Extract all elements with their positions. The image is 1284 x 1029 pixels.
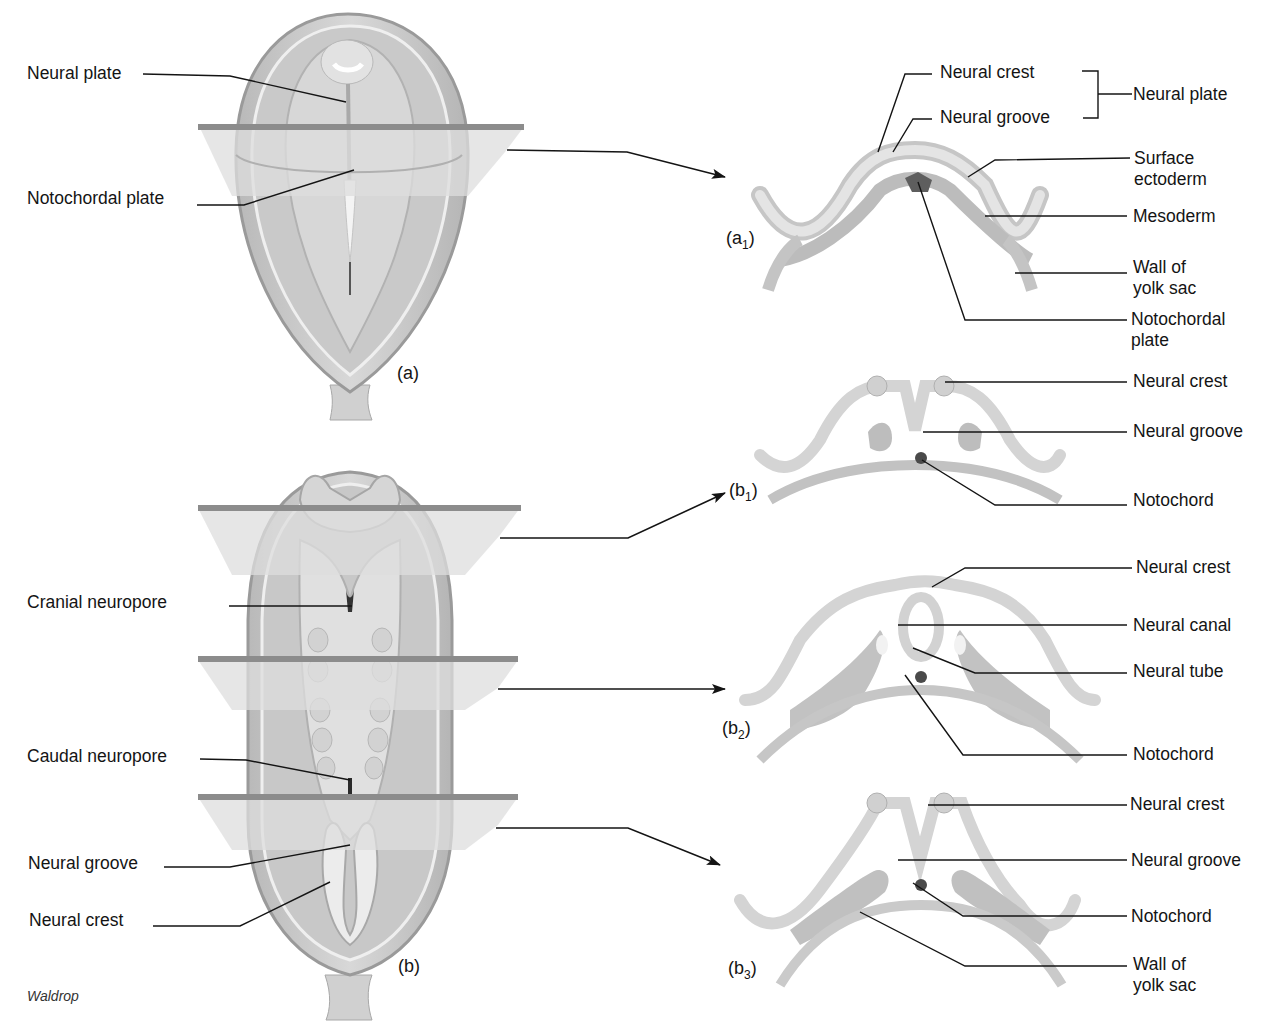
label-a1-notochordal-plate: Notochordal plate bbox=[1131, 309, 1225, 351]
embryo-a-illustration bbox=[198, 14, 524, 420]
label-b1-neural-crest: Neural crest bbox=[1133, 371, 1227, 392]
label-b3-notochord: Notochord bbox=[1131, 906, 1212, 927]
section-b3-illustration bbox=[740, 793, 1075, 985]
section-a1-illustration bbox=[760, 150, 1040, 290]
label-b2-neural-canal: Neural canal bbox=[1133, 615, 1231, 636]
label-b3-neural-groove: Neural groove bbox=[1131, 850, 1241, 871]
section-b1-illustration bbox=[760, 376, 1060, 500]
section-arrows bbox=[496, 150, 725, 865]
section-b2-illustration bbox=[745, 581, 1095, 760]
arrow-to-b1 bbox=[500, 493, 725, 538]
label-b-neural-crest: Neural crest bbox=[29, 910, 123, 931]
label-a-neural-plate: Neural plate bbox=[27, 63, 121, 84]
label-b-neural-groove: Neural groove bbox=[28, 853, 138, 874]
figure-artwork bbox=[0, 0, 1284, 1029]
label-b3-neural-crest: Neural crest bbox=[1130, 794, 1224, 815]
panel-label-b: (b) bbox=[398, 956, 420, 977]
label-a-notochordal-plate: Notochordal plate bbox=[27, 188, 164, 209]
panel-label-a: (a) bbox=[397, 363, 419, 384]
label-a1-neural-groove: Neural groove bbox=[940, 107, 1050, 128]
arrow-to-a1 bbox=[507, 150, 725, 177]
neurulation-figure: Neural plate Notochordal plate (a) Crani… bbox=[0, 0, 1284, 1029]
label-b1-neural-groove: Neural groove bbox=[1133, 421, 1243, 442]
label-a1-wall-of-yolk-sac: Wall of yolk sac bbox=[1133, 257, 1196, 299]
label-b3-wall-of-yolk-sac: Wall of yolk sac bbox=[1133, 954, 1196, 996]
label-a1-surface-ectoderm: Surface ectoderm bbox=[1134, 148, 1207, 190]
label-b-cranial-neuropore: Cranial neuropore bbox=[27, 592, 167, 613]
label-a1-mesoderm: Mesoderm bbox=[1133, 206, 1216, 227]
label-b2-neural-crest: Neural crest bbox=[1136, 557, 1230, 578]
panel-label-b1: (b1) bbox=[729, 480, 758, 504]
embryo-b-illustration bbox=[198, 472, 521, 1020]
panel-label-b2: (b2) bbox=[722, 718, 751, 742]
label-b2-notochord: Notochord bbox=[1133, 744, 1214, 765]
label-b2-neural-tube: Neural tube bbox=[1133, 661, 1223, 682]
label-b1-notochord: Notochord bbox=[1133, 490, 1214, 511]
artist-credit: Waldrop bbox=[27, 988, 79, 1004]
label-b-caudal-neuropore: Caudal neuropore bbox=[27, 746, 167, 767]
label-a1-neural-plate-bracket: Neural plate bbox=[1133, 84, 1227, 105]
panel-label-b3: (b3) bbox=[728, 958, 757, 982]
label-a1-neural-crest: Neural crest bbox=[940, 62, 1034, 83]
arrow-to-b3 bbox=[496, 828, 720, 865]
panel-label-a1: (a1) bbox=[726, 228, 755, 252]
